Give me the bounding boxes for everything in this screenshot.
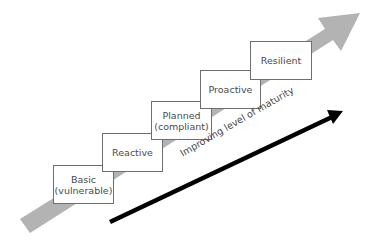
step-label: Basic [71,174,96,185]
step-label: Reactive [112,147,153,158]
step-label: Proactive [209,84,253,95]
step-label: Resilient [261,55,301,66]
step-resilient: Resilient [250,41,312,80]
step-label: Planned [162,110,200,121]
step-sublabel: (vulnerable) [55,185,113,196]
step-sublabel: (compliant) [154,121,209,132]
